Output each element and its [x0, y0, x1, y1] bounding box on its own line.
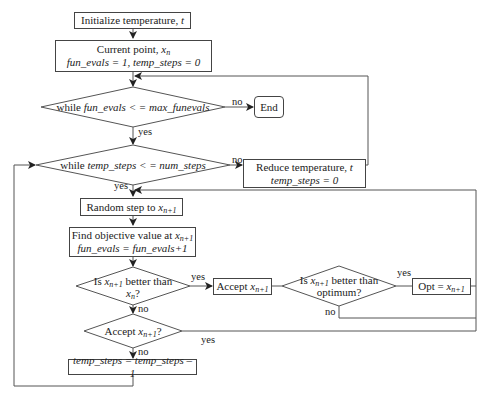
optimum-text: optimum?	[317, 286, 362, 298]
question-mark: ?	[135, 287, 140, 299]
init-counters-text: fun_evals = 1, temp_steps = 0	[67, 56, 200, 69]
random-step-node: Random step to xn+1	[80, 198, 183, 216]
question-mark-2: ?	[157, 325, 162, 337]
init-temperature-label: Initialize temperature,	[81, 14, 178, 26]
accept-node: Accept xn+1	[213, 278, 272, 295]
is-better-than-optimum-decision: Is xn+1 better than optimum?	[294, 273, 384, 299]
is-keyword: Is	[94, 275, 102, 287]
yes-label-accept: yes	[201, 334, 215, 345]
x-sub-7: n+1	[451, 285, 464, 294]
fun-evals-condition: fun_evals < = max_funevals	[84, 101, 210, 113]
reduce-temperature-node: Reduce temperature, t temp_steps = 0	[243, 159, 366, 188]
temperature-var-2: t	[350, 161, 353, 173]
while-temp-steps-decision: while temp_steps < = num_steps	[45, 157, 221, 173]
end-label: End	[260, 101, 278, 114]
reduce-temperature-label: Reduce temperature,	[256, 161, 347, 173]
while-keyword-2: while	[60, 159, 84, 171]
better-than-text-2: better than	[332, 274, 379, 286]
while-fun-evals-decision: while fun_evals < = max_funevals	[50, 99, 216, 115]
opt-label: Opt =	[418, 280, 443, 292]
while-keyword: while	[57, 101, 81, 113]
reset-temp-steps-text: temp_steps = 0	[271, 174, 338, 187]
find-objective-label: Find objective value at	[72, 229, 173, 241]
decrement-temp-steps-node: temp_steps = temp_steps – 1	[68, 359, 197, 375]
flowchart-canvas: Initialize temperature, t Current point,…	[0, 0, 493, 401]
x-sub-2: n+1	[163, 206, 176, 215]
better-than-text: better than	[126, 275, 173, 287]
accept-q-label: Accept	[104, 325, 135, 337]
x-sub-5: n+1	[255, 285, 268, 294]
yes-label-optimum: yes	[397, 267, 411, 278]
x-sub-8: n+1	[143, 330, 156, 339]
current-point-label: Current point,	[97, 43, 159, 55]
accept-decision: Accept xn+1?	[98, 324, 168, 338]
no-label-funevals: no	[232, 96, 243, 107]
no-label-tempsteps: no	[232, 154, 243, 165]
decrement-text: temp_steps = temp_steps – 1	[69, 354, 196, 380]
accept-label: Accept	[216, 280, 247, 292]
current-point-node: Current point, xn fun_evals = 1, temp_st…	[55, 40, 212, 72]
yes-label-funevals: yes	[138, 126, 152, 137]
init-temperature-node: Initialize temperature, t	[74, 12, 191, 29]
no-label-better: no	[138, 303, 149, 314]
random-step-label: Random step to	[86, 201, 155, 213]
temperature-var: t	[181, 14, 184, 26]
no-label-optimum: no	[325, 306, 336, 317]
yes-label-better: yes	[191, 271, 205, 282]
yes-label-tempsteps: yes	[114, 180, 128, 191]
find-objective-node: Find objective value at xn+1 fun_evals =…	[69, 227, 196, 257]
temp-steps-condition: temp_steps < = num_steps	[87, 159, 205, 171]
is-keyword-2: Is	[300, 274, 308, 286]
opt-update-node: Opt = xn+1	[412, 278, 471, 295]
end-node: End	[254, 96, 284, 118]
x-sub-4: n+1	[109, 280, 122, 289]
increment-fun-evals-text: fun_evals = fun_evals+1	[77, 242, 187, 255]
is-better-decision: Is xn+1 better than xn?	[88, 274, 178, 300]
